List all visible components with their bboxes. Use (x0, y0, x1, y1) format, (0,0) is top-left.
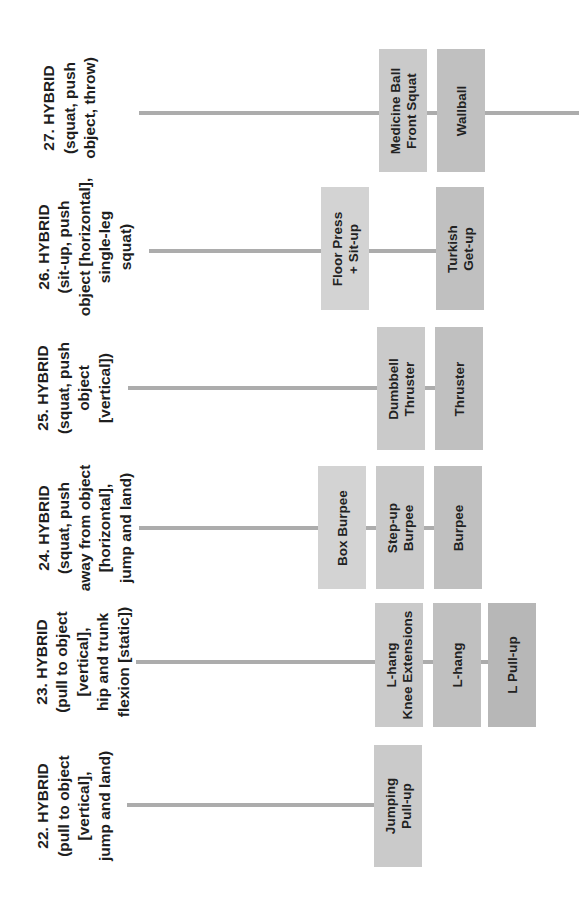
exercise-box-floor-press-sit-up: Floor Press + Sit-up (321, 187, 369, 310)
row-label-22: 22. HYBRID (pull to object [vertical], j… (4, 736, 144, 876)
exercise-box-l-hang-knee-extensions: L-hang Knee Extensions (375, 603, 423, 727)
exercise-box-turkish-get-up: Turkish Get-up (436, 187, 484, 310)
row-label-text: 26. HYBRID (sit-up, push object [horizon… (34, 178, 137, 317)
row-label-text: 22. HYBRID (pull to object [vertical], j… (33, 751, 115, 861)
row-label-25: 25. HYBRID (squat, push object [vertical… (4, 318, 144, 458)
exercise-box-l-pull-up: L Pull-up (488, 603, 536, 727)
exercise-box-l-hang: L-hang (433, 603, 481, 727)
exercise-box-jumping-pull-up: Jumping Pull-up (374, 745, 422, 867)
row-label-26: 26. HYBRID (sit-up, push object [horizon… (15, 177, 155, 317)
connector-line (139, 111, 579, 115)
exercise-box-medicine-ball-front-squat: Medicine Ball Front Squat (379, 49, 427, 172)
row-label-text: 25. HYBRID (squat, push object [vertical… (33, 342, 115, 434)
connector-line (149, 249, 449, 253)
exercise-box-step-up-burpee: Step-up Burpee (376, 466, 424, 589)
row-label-23: 23. HYBRID (pull to object [vertical], h… (13, 592, 153, 732)
exercise-box-dumbbell-thruster: Dumbbell Thruster (377, 327, 425, 450)
row-label-text: 24. HYBRID (squat, push away from object… (34, 465, 137, 592)
row-label-24: 24. HYBRID (squat, push away from object… (15, 458, 155, 598)
exercise-box-box-burpee: Box Burpee (318, 466, 366, 589)
exercise-box-thruster: Thruster (435, 327, 483, 450)
row-label-text: 23. HYBRID (pull to object [vertical], h… (32, 607, 135, 717)
exercise-box-burpee: Burpee (434, 466, 482, 589)
row-label-text: 27. HYBRID (squat, push object, throw) (39, 57, 101, 159)
exercise-box-wallball: Wallball (437, 49, 485, 172)
connector-line (127, 803, 387, 807)
row-label-27: 27. HYBRID (squat, push object, throw) (0, 38, 140, 178)
